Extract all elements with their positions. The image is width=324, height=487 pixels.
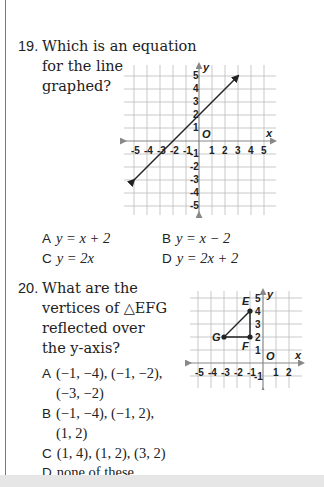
svg-text:-3: -3 xyxy=(221,367,230,378)
svg-text:x: x xyxy=(294,349,302,361)
svg-text:5: 5 xyxy=(261,145,267,156)
question-prompt-line: the y-axis? xyxy=(42,339,120,358)
choice-a-continued: (−3, −2) xyxy=(56,384,104,403)
choice-a[interactable]: A(−1, −4), (−1, −2), xyxy=(42,364,162,383)
choice-a[interactable]: Ay = x + 2 xyxy=(42,229,110,248)
question-prompt-line: reflected over xyxy=(42,319,145,338)
point-f xyxy=(247,334,252,339)
svg-text:-3: -3 xyxy=(157,145,166,156)
svg-text:2: 2 xyxy=(286,367,292,378)
svg-text:5: 5 xyxy=(255,293,261,304)
question-prompt-line: What are the xyxy=(42,279,138,298)
svg-text:5: 5 xyxy=(193,70,199,81)
svg-text:2: 2 xyxy=(193,109,199,120)
svg-text:-4: -4 xyxy=(208,367,217,378)
svg-text:2: 2 xyxy=(255,332,261,343)
svg-text:y: y xyxy=(266,288,274,300)
triangle-graph: y x O E F G 5 4 3 2 1 -1 -5 -4 -3 -2 -1 … xyxy=(185,285,310,390)
svg-text:2: 2 xyxy=(222,145,228,156)
grid-lines xyxy=(124,65,276,215)
axis-labels: y x O 5 4 3 2 1 -1 -2 -3 -4 -5 -5 -4 -3 … xyxy=(131,61,273,211)
question-prompt-line: graphed? xyxy=(42,77,111,96)
question-number: 19. xyxy=(18,37,38,56)
svg-text:E: E xyxy=(242,295,250,307)
question-prompt-line: for the line xyxy=(42,57,123,76)
choice-b[interactable]: By = x − 2 xyxy=(162,229,230,248)
line-graph: y x O 5 4 3 2 1 -1 -2 -3 -4 -5 -5 -4 -3 … xyxy=(120,60,280,220)
choice-b[interactable]: B(−1, −4), (−1, 2), xyxy=(42,404,154,423)
svg-text:O: O xyxy=(266,350,275,362)
question-prompt-line: vertices of △EFG xyxy=(42,299,167,318)
question-prompt-line: Which is an equation xyxy=(42,37,197,56)
svg-text:3: 3 xyxy=(255,319,261,330)
svg-text:-2: -2 xyxy=(234,367,243,378)
svg-text:4: 4 xyxy=(255,306,261,317)
svg-text:G: G xyxy=(212,331,221,343)
page-margin-rule xyxy=(5,0,6,475)
choice-c[interactable]: C(1, 4), (1, 2), (3, 2) xyxy=(42,444,165,463)
svg-text:F: F xyxy=(242,340,249,352)
svg-text:-5: -5 xyxy=(190,200,199,211)
svg-text:x: x xyxy=(265,127,273,139)
svg-text:1: 1 xyxy=(273,367,279,378)
svg-text:-4: -4 xyxy=(190,187,199,198)
svg-text:1: 1 xyxy=(255,345,261,356)
page-bottom-band xyxy=(0,475,324,487)
svg-text:4: 4 xyxy=(248,145,254,156)
choice-c[interactable]: Cy = 2x xyxy=(42,249,94,268)
point-g xyxy=(221,334,226,339)
svg-text:-1: -1 xyxy=(183,145,192,156)
point-e xyxy=(247,308,252,313)
svg-text:y: y xyxy=(202,61,210,73)
svg-text:1: 1 xyxy=(209,145,215,156)
svg-text:-2: -2 xyxy=(190,161,199,172)
choice-b-continued: (1, 2) xyxy=(56,424,87,443)
choice-d[interactable]: Dy = 2x + 2 xyxy=(162,249,238,268)
svg-text:3: 3 xyxy=(193,96,199,107)
svg-text:-3: -3 xyxy=(190,174,199,185)
svg-text:3: 3 xyxy=(235,145,241,156)
svg-text:-1: -1 xyxy=(247,367,256,378)
svg-text:-5: -5 xyxy=(131,145,140,156)
svg-text:O: O xyxy=(202,128,211,140)
question-number: 20. xyxy=(18,279,38,298)
svg-text:-2: -2 xyxy=(170,145,179,156)
svg-text:1: 1 xyxy=(193,122,199,133)
svg-text:4: 4 xyxy=(193,83,199,94)
svg-text:-5: -5 xyxy=(195,367,204,378)
svg-text:-4: -4 xyxy=(144,145,153,156)
